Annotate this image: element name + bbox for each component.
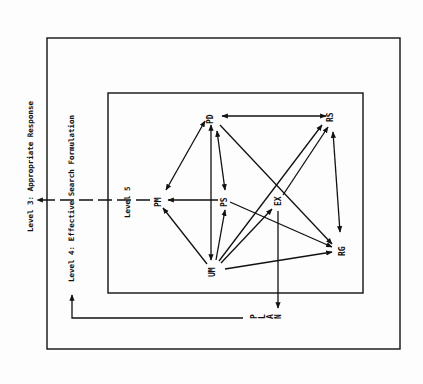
edge-um-ex xyxy=(221,209,272,263)
level-5-label: Level 5 xyxy=(123,186,132,218)
svg-text:N: N xyxy=(274,314,283,319)
edge-pd-pm xyxy=(166,121,205,190)
diagram-canvas: Level 3: Appropriate Response Level 4: E… xyxy=(0,0,423,384)
node-RS: RS xyxy=(326,112,335,122)
edge-rs-rg xyxy=(333,132,340,232)
node-PS: PS xyxy=(220,197,229,207)
diagram-svg: Level 3: Appropriate Response Level 4: E… xyxy=(0,0,423,384)
inner-box-level-5 xyxy=(108,93,363,293)
node-UM: UM xyxy=(208,267,217,277)
node-EX: EX xyxy=(274,196,283,206)
edge-um-rs xyxy=(219,125,322,261)
edge-ex-rs xyxy=(283,127,328,195)
edge-plan-level4 xyxy=(72,295,243,318)
level-4-label: Level 4: Effective Search Formulation xyxy=(67,115,76,282)
outer-box-level-4 xyxy=(47,38,400,349)
edge-pd-rg xyxy=(220,125,332,244)
plan-label: P L A N xyxy=(250,314,283,319)
level-3-label: Level 3: Appropriate Response xyxy=(26,101,35,232)
node-RG: RG xyxy=(338,246,347,256)
edge-um-ps xyxy=(216,210,225,260)
node-PD: PD xyxy=(206,114,215,124)
edges xyxy=(37,116,340,318)
edge-um-pm xyxy=(163,208,207,264)
node-PM: PM xyxy=(154,197,163,207)
edge-pd-ps xyxy=(217,131,225,190)
edge-ps-rg xyxy=(230,202,332,247)
